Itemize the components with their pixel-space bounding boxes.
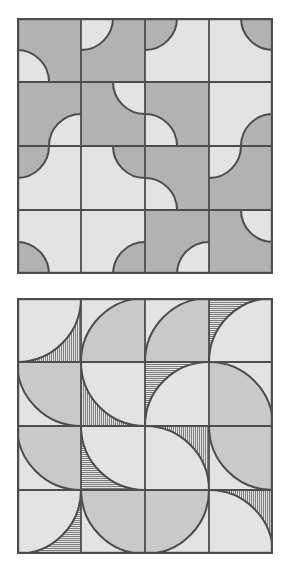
truchet-tile: [209, 210, 273, 274]
truchet-tile: [145, 82, 209, 146]
tile-grid-a: [17, 18, 273, 274]
tile-panel-a: [17, 18, 273, 274]
truchet-tile: [145, 426, 209, 490]
truchet-tile: [81, 82, 145, 146]
truchet-tile: [209, 490, 273, 554]
truchet-tile: [81, 490, 145, 554]
truchet-tile: [17, 362, 81, 426]
truchet-tile: [81, 298, 145, 362]
truchet-tile: [145, 18, 209, 82]
truchet-tile: [145, 362, 209, 426]
truchet-tile: [209, 146, 273, 210]
truchet-tile: [81, 426, 145, 490]
tile-panel-b: [17, 298, 273, 554]
truchet-tile: [209, 362, 273, 426]
truchet-tile: [17, 490, 81, 554]
truchet-tile: [145, 298, 209, 362]
truchet-tile: [17, 82, 81, 146]
truchet-tile: [17, 210, 81, 274]
truchet-tile: [145, 210, 209, 274]
truchet-tile: [209, 426, 273, 490]
truchet-tile: [17, 18, 81, 82]
truchet-tile: [145, 490, 209, 554]
truchet-tile: [209, 298, 273, 362]
truchet-tile: [81, 146, 145, 210]
truchet-tile: [17, 146, 81, 210]
figure-stack: [0, 0, 291, 581]
truchet-tile: [145, 146, 209, 210]
truchet-tile: [17, 298, 81, 362]
truchet-tile: [81, 18, 145, 82]
truchet-tile: [209, 82, 273, 146]
tile-grid-b: [17, 298, 273, 554]
truchet-tile: [81, 210, 145, 274]
truchet-tile: [209, 18, 273, 82]
truchet-tile: [81, 362, 145, 426]
truchet-tile: [17, 426, 81, 490]
